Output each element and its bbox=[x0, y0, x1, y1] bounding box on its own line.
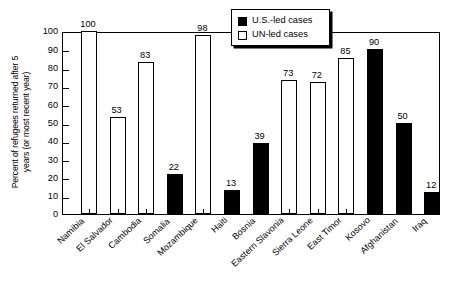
x-tick-mark-0 bbox=[89, 209, 90, 214]
bar-bosnia bbox=[253, 143, 269, 214]
bar-chart: Percent of refugees returned after 5 yea… bbox=[0, 0, 453, 294]
y-tick-mark-60 bbox=[63, 106, 69, 107]
bar-value-mozambique: 98 bbox=[182, 24, 222, 33]
x-tick-mark-9 bbox=[346, 209, 347, 214]
bar-value-el-salvador: 53 bbox=[97, 106, 137, 115]
legend-label-un: UN-led cases bbox=[252, 30, 308, 39]
y-tick-mark-70 bbox=[63, 88, 69, 89]
y-tick-mark-20 bbox=[63, 179, 69, 180]
x-tick-mark-11 bbox=[404, 209, 405, 214]
y-tick-label-90: 90 bbox=[18, 46, 58, 55]
x-tick-mark-4 bbox=[203, 209, 204, 214]
legend-swatch-us bbox=[238, 17, 247, 26]
legend-label-us: U.S.-led cases bbox=[252, 16, 312, 25]
bar-eastern-slavonia bbox=[281, 80, 297, 214]
bar-east-timor bbox=[338, 58, 354, 214]
bar-cambodia bbox=[138, 62, 154, 214]
y-tick-label-30: 30 bbox=[18, 156, 58, 165]
bar-value-somalia: 22 bbox=[154, 163, 194, 172]
y-tick-mark-40 bbox=[63, 143, 69, 144]
legend-item-un: UN-led cases bbox=[238, 28, 329, 42]
y-tick-label-0: 0 bbox=[18, 210, 58, 219]
bar-value-kosovo: 90 bbox=[354, 38, 394, 47]
y-tick-label-70: 70 bbox=[18, 82, 58, 91]
bar-kosovo bbox=[367, 49, 383, 214]
bar-somalia bbox=[167, 174, 183, 214]
y-tick-label-100: 100 bbox=[18, 27, 58, 36]
bar-value-cambodia: 83 bbox=[125, 51, 165, 60]
y-tick-mark-80 bbox=[63, 70, 69, 71]
y-tick-label-50: 50 bbox=[18, 119, 58, 128]
x-tick-mark-5 bbox=[232, 209, 233, 214]
bar-el-salvador bbox=[110, 117, 126, 214]
bar-sierra-leone bbox=[310, 82, 326, 214]
bar-value-haiti: 13 bbox=[211, 179, 251, 188]
y-tick-mark-90 bbox=[63, 51, 69, 52]
plot-area bbox=[62, 32, 440, 215]
y-tick-label-10: 10 bbox=[18, 192, 58, 201]
x-tick-mark-3 bbox=[175, 209, 176, 214]
y-tick-label-60: 60 bbox=[18, 101, 58, 110]
x-tick-mark-8 bbox=[318, 209, 319, 214]
x-tick-mark-2 bbox=[146, 209, 147, 214]
bar-mozambique bbox=[195, 35, 211, 214]
x-tick-mark-12 bbox=[432, 209, 433, 214]
bar-value-bosnia: 39 bbox=[240, 132, 280, 141]
y-tick-label-80: 80 bbox=[18, 64, 58, 73]
legend: U.S.-led casesUN-led cases bbox=[231, 9, 330, 46]
bar-namibia bbox=[81, 31, 97, 214]
x-label-haiti: Haiti bbox=[210, 216, 229, 235]
bar-value-afghanistan: 50 bbox=[383, 112, 423, 121]
bar-value-iraq: 12 bbox=[411, 181, 451, 190]
legend-swatch-un bbox=[238, 31, 247, 40]
y-tick-mark-10 bbox=[63, 198, 69, 199]
y-tick-label-20: 20 bbox=[18, 174, 58, 183]
x-tick-mark-7 bbox=[289, 209, 290, 214]
bar-value-east-timor: 85 bbox=[325, 47, 365, 56]
x-tick-mark-6 bbox=[261, 209, 262, 214]
legend-item-us: U.S.-led cases bbox=[238, 14, 329, 28]
bar-value-sierra-leone: 72 bbox=[297, 71, 337, 80]
bar-value-namibia: 100 bbox=[68, 20, 108, 29]
bar-afghanistan bbox=[396, 123, 412, 215]
y-tick-mark-50 bbox=[63, 125, 69, 126]
x-label-iraq: Iraq bbox=[411, 217, 428, 234]
y-tick-label-40: 40 bbox=[18, 137, 58, 146]
y-tick-mark-30 bbox=[63, 161, 69, 162]
x-tick-mark-1 bbox=[118, 209, 119, 214]
x-tick-mark-10 bbox=[375, 209, 376, 214]
